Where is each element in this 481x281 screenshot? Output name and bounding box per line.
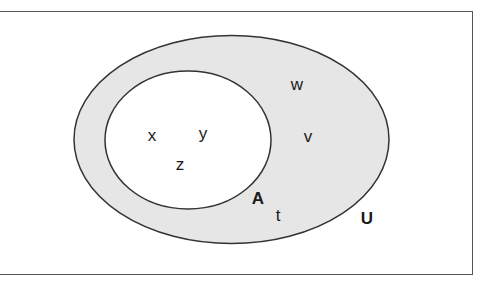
element-y-label: y bbox=[199, 124, 208, 143]
set-a-ellipse bbox=[105, 71, 271, 209]
element-t-label: t bbox=[276, 206, 281, 225]
universal-set-label: U bbox=[361, 209, 373, 228]
element-x-label: x bbox=[148, 126, 157, 145]
element-v-label: v bbox=[304, 127, 313, 146]
venn-diagram: x y z w v t A U bbox=[0, 0, 481, 281]
set-a-label: A bbox=[252, 189, 264, 208]
element-z-label: z bbox=[176, 155, 185, 174]
element-w-label: w bbox=[290, 75, 304, 94]
